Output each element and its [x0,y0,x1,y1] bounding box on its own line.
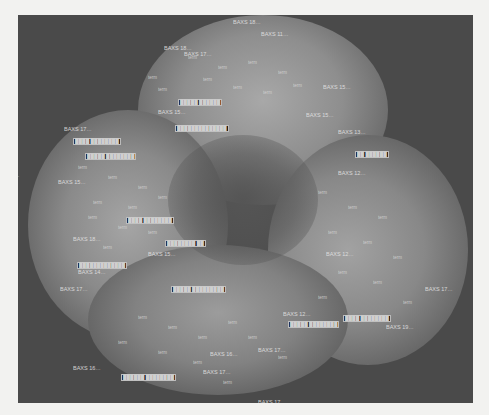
map-label[interactable]: BAXS 18… [233,20,261,25]
term-label[interactable]: term [203,77,212,82]
term-label[interactable]: term [188,55,197,60]
term-label[interactable]: term [248,60,257,65]
term-label[interactable]: term [148,230,157,235]
term-label[interactable]: term [403,300,412,305]
highlighted-map-label[interactable]: ██████████████ [175,125,229,132]
term-label[interactable]: term [193,360,202,365]
term-label[interactable]: term [93,200,102,205]
map-label[interactable]: BAXS 11… [261,32,288,37]
map-label[interactable]: BAXS 17… [258,400,286,403]
highlighted-map-label[interactable]: █████ █████████ [171,286,226,293]
highlighted-map-label[interactable]: █████████████ [77,262,127,269]
term-label[interactable]: term [338,270,347,275]
term-label[interactable]: term [293,83,302,88]
highlighted-map-label[interactable]: ████ ████████ [343,315,391,322]
map-label[interactable]: BAXS 15… [306,113,334,118]
map-label[interactable]: BAXS 19… [386,325,414,330]
density-map[interactable]: BAXS 18…BAXS 11…BAXS 18…BAXS 17…BAXS 17…… [18,15,473,403]
highlighted-map-label[interactable]: ██ ██████ [355,151,389,158]
term-label[interactable]: term [138,315,147,320]
map-label[interactable]: BAXS 16… [210,352,238,357]
term-label[interactable]: term [278,70,287,75]
term-label[interactable]: term [118,225,127,230]
term-label[interactable]: term [78,165,87,170]
term-label[interactable]: term [228,320,237,325]
map-label[interactable]: BAXS 15… [148,252,176,257]
map-label[interactable]: BAXS 13… [338,130,366,135]
map-label[interactable]: BAXS 15… [158,110,186,115]
map-label[interactable]: BAXS 15… [58,180,86,185]
highlighted-map-label[interactable]: ████████ ██ [165,240,206,247]
term-label[interactable]: term [218,65,227,70]
term-label[interactable]: term [373,280,382,285]
term-label[interactable]: term [103,245,112,250]
term-label[interactable]: term [88,215,97,220]
term-label[interactable]: term [248,335,257,340]
term-label[interactable]: term [138,185,147,190]
map-label[interactable]: BAXS 17… [64,127,92,132]
term-label[interactable]: term [108,175,117,180]
term-label[interactable]: term [128,205,137,210]
term-label[interactable]: term [328,230,337,235]
term-label[interactable]: term [158,350,167,355]
term-label[interactable]: term [318,295,327,300]
highlighted-map-label[interactable]: ████ ████████ [126,217,174,224]
map-label[interactable]: BAXS 17… [203,370,231,375]
term-label[interactable]: term [158,87,167,92]
term-label[interactable]: term [363,240,372,245]
density-cloud-right [268,135,468,365]
map-label[interactable]: BAXS 17… [258,348,286,353]
term-label[interactable]: term [348,205,357,210]
highlighted-map-label[interactable]: █████ ████████ [288,321,339,328]
map-label[interactable]: BAXS 12… [338,171,366,176]
map-label[interactable]: BAXS 15… [323,85,351,90]
highlighted-map-label[interactable]: █████ ██████ [178,99,222,106]
term-label[interactable]: term [378,215,387,220]
map-label[interactable]: BAXS 18… [73,237,101,242]
highlighted-map-label[interactable]: ████ ████████ [73,138,121,145]
term-label[interactable]: term [393,255,402,260]
term-label[interactable]: term [318,190,327,195]
term-label[interactable]: term [158,195,167,200]
density-cloud-left [28,110,228,340]
term-label[interactable]: term [118,340,127,345]
term-label[interactable]: term [223,380,232,385]
term-label[interactable]: term [278,355,287,360]
term-label[interactable]: term [263,90,272,95]
map-label[interactable]: BAXS 14… [78,270,106,275]
term-label[interactable]: term [233,85,242,90]
map-label[interactable]: … [18,173,20,178]
term-label[interactable]: term [148,75,157,80]
term-label[interactable]: term [168,325,177,330]
term-label[interactable]: term [198,335,207,340]
map-label[interactable]: BAXS 17… [60,287,88,292]
map-label[interactable]: BAXS 16… [73,366,101,371]
highlighted-map-label[interactable]: █████ ████████ [85,153,136,160]
map-label[interactable]: BAXS 12… [283,312,311,317]
highlighted-map-label[interactable]: ██████ ████████ [121,374,176,381]
map-label[interactable]: BAXS 12… [326,252,354,257]
map-label[interactable]: BAXS 17… [425,287,453,292]
